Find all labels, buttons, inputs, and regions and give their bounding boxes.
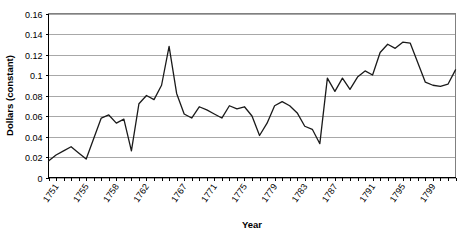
y-tick-label: 0.14 [25, 30, 43, 40]
line-chart: 00.020.040.060.080.10.120.140.16 1751175… [0, 0, 467, 238]
y-tick-label: 0.02 [25, 153, 43, 163]
y-tick-label: 0.12 [25, 51, 43, 61]
x-axis-title: Year [242, 219, 262, 230]
y-tick-label: 0.06 [25, 112, 43, 122]
y-axis-tick-labels: 00.020.040.060.080.10.120.140.16 [25, 10, 43, 184]
y-axis-title: Dollars (constant) [4, 55, 15, 136]
chart-container: 00.020.040.060.080.10.120.140.16 1751175… [0, 0, 467, 238]
y-tick-label: 0 [37, 174, 42, 184]
y-tick-label: 0.16 [25, 10, 43, 20]
y-tick-label: 0.08 [25, 92, 43, 102]
y-tick-label: 0.04 [25, 133, 43, 143]
y-tick-label: 0.1 [30, 71, 43, 81]
